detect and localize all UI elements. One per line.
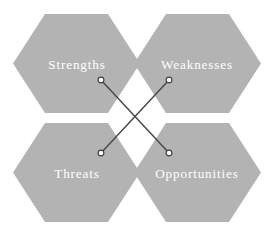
- hexagon-label-weaknesses: Weaknesses: [161, 57, 233, 72]
- node-marker-weaknesses[interactable]: [166, 77, 172, 83]
- hexagon-label-threats: Threats: [54, 166, 100, 181]
- hexagon-strengths[interactable]: Strengths: [13, 14, 140, 113]
- node-marker-strengths[interactable]: [98, 77, 104, 83]
- swot-diagram: Strengths Weaknesses Threats Opportuniti…: [0, 0, 274, 236]
- hexagon-label-strengths: Strengths: [48, 57, 105, 72]
- connector-group: [101, 80, 169, 153]
- swot-diagram-canvas: Strengths Weaknesses Threats Opportuniti…: [0, 0, 274, 236]
- node-marker-threats[interactable]: [98, 150, 104, 156]
- hexagon-opportunities[interactable]: Opportunities: [134, 123, 261, 222]
- node-marker-opportunities[interactable]: [166, 150, 172, 156]
- hexagon-label-opportunities: Opportunities: [155, 166, 239, 181]
- hexagon-threats[interactable]: Threats: [13, 123, 140, 222]
